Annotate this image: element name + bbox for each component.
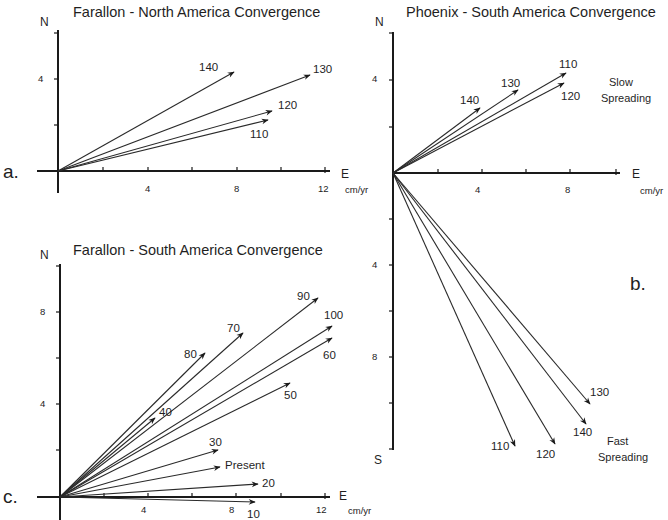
- vector-label: 110: [491, 440, 509, 452]
- vector-label: 60: [323, 349, 336, 361]
- vector-arrow: [60, 484, 258, 497]
- panel-a-east-label: E: [341, 167, 349, 181]
- y-tick-label: 8: [372, 351, 377, 362]
- y-tick-label: 8: [40, 306, 45, 317]
- slow-spreading-note: Spreading: [601, 92, 651, 104]
- panel-a-label: a.: [3, 161, 19, 182]
- panel-c-units-label: cm/yr: [348, 505, 371, 516]
- y-tick-label: 4: [372, 73, 377, 84]
- vector-label: 130: [590, 386, 609, 398]
- vector-label: 110: [559, 58, 577, 70]
- vector-label: 70: [227, 322, 240, 334]
- vector-arrow: [393, 90, 518, 173]
- panel-b-title: Phoenix - South America Convergence: [406, 4, 656, 20]
- vector-label: 120: [561, 90, 580, 102]
- vector-label: 130: [501, 77, 520, 89]
- y-tick-label: 4: [40, 398, 45, 409]
- figure-canvas: Farallon - North America Convergence N 4…: [0, 0, 668, 520]
- vector-label: 100: [324, 309, 343, 321]
- x-tick-label: 8: [234, 183, 239, 194]
- vector-arrow: [58, 75, 310, 171]
- panel-b-label: b.: [630, 273, 646, 294]
- vector-arrow: [58, 111, 272, 171]
- vector-label: 10: [247, 508, 260, 520]
- vector-label: 120: [536, 448, 555, 460]
- x-tick-label: 8: [565, 184, 570, 195]
- x-tick-label: 12: [318, 183, 329, 194]
- vector-label: 140: [199, 61, 218, 73]
- vector-label: 130: [313, 63, 332, 75]
- panel-b-south-label: S: [374, 453, 382, 467]
- x-tick-label: 4: [475, 184, 480, 195]
- vector-label: 80: [184, 348, 197, 360]
- fast-spreading-note: Spreading: [598, 451, 648, 463]
- panel-a-north-label: N: [40, 15, 49, 29]
- vector-label: 20: [262, 477, 275, 489]
- x-tick-label: 12: [316, 504, 327, 515]
- panel-b: Phoenix - South America Convergence N S …: [372, 4, 663, 467]
- vector-label: 140: [573, 426, 592, 438]
- vector-arrow: [393, 108, 480, 173]
- panel-b-units-label: cm/yr: [640, 185, 663, 196]
- vector-label: 90: [297, 290, 310, 302]
- vector-arrow: [58, 120, 268, 171]
- panel-c: Farallon - South America Convergence N 8…: [3, 242, 371, 520]
- vector-label: 50: [284, 389, 297, 401]
- y-tick-label: 4: [38, 73, 43, 84]
- panel-b-north-label: N: [375, 15, 384, 29]
- vector-arrow: [60, 383, 290, 497]
- panel-c-east-label: E: [339, 489, 347, 503]
- vector-arrow: [393, 73, 566, 173]
- slow-spreading-note: Slow: [609, 76, 633, 88]
- vector-arrow: [58, 72, 234, 171]
- vector-arrow: [393, 173, 555, 444]
- vector-label: Present: [225, 459, 265, 471]
- vector-arrow: [393, 173, 590, 404]
- vector-label: 40: [159, 406, 172, 418]
- vector-label: 120: [278, 99, 297, 111]
- vector-arrow: [393, 173, 586, 424]
- y-tick-label: 4: [372, 259, 377, 270]
- vector-arrow: [393, 173, 515, 446]
- panel-c-north-label: N: [40, 248, 49, 262]
- panel-c-label: c.: [3, 486, 18, 507]
- panel-c-title: Farallon - South America Convergence: [73, 242, 323, 258]
- vector-label: 140: [460, 94, 479, 106]
- vector-arrow: [60, 298, 318, 497]
- panel-a: Farallon - North America Convergence N 4…: [3, 4, 368, 195]
- vector-label: 30: [209, 436, 222, 448]
- x-tick-label: 8: [229, 504, 234, 515]
- x-tick-label: 4: [141, 504, 146, 515]
- vector-label: 110: [250, 128, 268, 140]
- panel-a-units-label: cm/yr: [345, 184, 368, 195]
- panel-b-east-label: E: [632, 167, 640, 181]
- vector-arrow: [60, 333, 243, 497]
- panel-a-title: Farallon - North America Convergence: [73, 4, 320, 20]
- fast-spreading-note: Fast: [607, 435, 628, 447]
- x-tick-label: 4: [145, 183, 150, 194]
